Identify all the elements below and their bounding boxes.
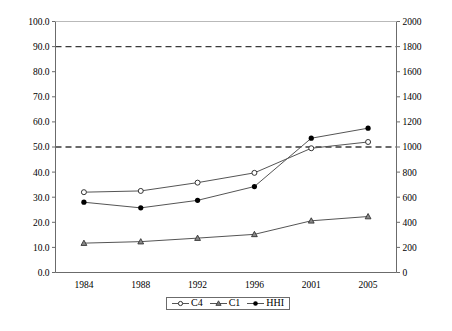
- left-axis-tick-group: 0.010.020.030.040.050.060.070.080.090.01…: [28, 17, 55, 278]
- svg-text:10.0: 10.0: [33, 243, 50, 253]
- data-point: [81, 200, 86, 205]
- chart-container: 0.010.020.030.040.050.060.070.080.090.01…: [0, 0, 452, 331]
- data-point: [195, 180, 200, 185]
- data-point: [365, 214, 371, 219]
- open-circle-marker-icon: [172, 299, 189, 308]
- svg-text:2005: 2005: [359, 280, 378, 290]
- svg-text:1600: 1600: [403, 67, 422, 77]
- line-chart: 0.010.020.030.040.050.060.070.080.090.01…: [0, 0, 452, 331]
- series-c4: [81, 139, 370, 194]
- series-hhi: [81, 126, 370, 211]
- triangle-marker-icon: [210, 299, 227, 308]
- svg-text:800: 800: [403, 168, 418, 178]
- svg-text:0.0: 0.0: [38, 268, 50, 278]
- right-axis-tick-group: 0200400600800100012001400160018002000: [397, 17, 422, 278]
- legend-label-c4: C4: [191, 298, 203, 308]
- svg-text:40.0: 40.0: [33, 168, 50, 178]
- data-point: [195, 198, 200, 203]
- data-point: [138, 205, 143, 210]
- svg-text:1988: 1988: [131, 280, 150, 290]
- svg-text:30.0: 30.0: [33, 193, 50, 203]
- legend-item-c4: C4: [172, 298, 203, 308]
- data-point: [81, 190, 86, 195]
- svg-text:600: 600: [403, 193, 418, 203]
- svg-text:20.0: 20.0: [33, 218, 50, 228]
- filled-circle-marker-icon: [247, 299, 264, 308]
- x-axis-tick-group: 198419881992199620012005: [74, 280, 377, 290]
- svg-text:400: 400: [403, 218, 418, 228]
- data-point: [366, 139, 371, 144]
- svg-text:2000: 2000: [403, 17, 422, 27]
- svg-text:2001: 2001: [302, 280, 321, 290]
- svg-text:70.0: 70.0: [33, 92, 50, 102]
- data-point: [252, 184, 257, 189]
- svg-text:0: 0: [403, 268, 408, 278]
- series-c1: [81, 214, 371, 246]
- data-point: [309, 146, 314, 151]
- legend-label-hhi: HHI: [266, 298, 284, 308]
- svg-text:1800: 1800: [403, 42, 422, 52]
- svg-text:60.0: 60.0: [33, 117, 50, 127]
- svg-text:1200: 1200: [403, 117, 422, 127]
- svg-text:50.0: 50.0: [33, 142, 50, 152]
- data-series-group: [81, 126, 371, 246]
- legend-item-c1: C1: [210, 298, 241, 308]
- data-point: [309, 136, 314, 141]
- legend-item-hhi: HHI: [247, 298, 284, 308]
- data-point: [365, 126, 370, 131]
- svg-text:1000: 1000: [403, 142, 422, 152]
- svg-text:1400: 1400: [403, 92, 422, 102]
- chart-legend: C4 C1 HHI: [166, 297, 290, 310]
- svg-text:100.0: 100.0: [28, 17, 50, 27]
- data-point: [252, 170, 257, 175]
- svg-text:80.0: 80.0: [33, 67, 50, 77]
- data-point: [138, 188, 143, 193]
- svg-text:1992: 1992: [188, 280, 207, 290]
- legend-label-c1: C1: [229, 298, 241, 308]
- svg-text:200: 200: [403, 243, 418, 253]
- svg-text:1984: 1984: [74, 280, 93, 290]
- svg-text:1996: 1996: [245, 280, 264, 290]
- svg-text:90.0: 90.0: [33, 42, 50, 52]
